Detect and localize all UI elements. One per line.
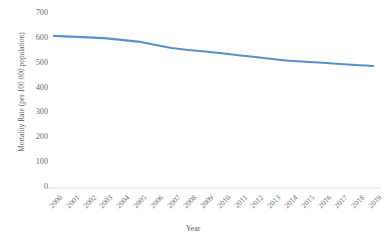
chart-container: Mortality Rate (per 100 000 population) … xyxy=(0,0,386,240)
x-axis-title: Year xyxy=(0,224,386,233)
series-line-0 xyxy=(54,36,373,66)
